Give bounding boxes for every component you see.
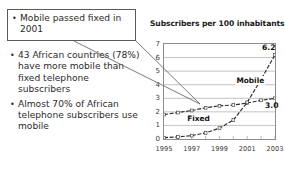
bullet-marker-icon: • (10, 99, 18, 110)
bullet-text: 43 African countries (78%) have more mob… (18, 50, 141, 96)
y-axis-tick-label: 1 (156, 121, 160, 129)
bullet-list-panel: • Mobile passed fixed in 2001 • 43 Afric… (0, 0, 148, 176)
gridlines (164, 58, 275, 126)
data-point-marker (176, 136, 179, 139)
list-item: • 43 African countries (78%) have more m… (7, 50, 141, 96)
callout-box: • Mobile passed fixed in 2001 (7, 9, 136, 41)
y-axis-labels: 01234567 (148, 43, 161, 140)
data-point-marker (274, 53, 275, 56)
x-axis-tick-label: 2001 (239, 145, 256, 153)
chart-title: Subscribers per 100 inhabitants (150, 19, 285, 28)
data-point-marker (260, 99, 263, 102)
y-axis-tick-label: 6 (156, 54, 160, 62)
y-axis-tick-label: 4 (156, 81, 160, 89)
x-axis-ticks (164, 136, 275, 139)
chart-panel: Subscribers per 100 inhabitants 01234567… (148, 0, 285, 176)
data-point-marker (274, 97, 275, 100)
list-item: • Almost 70% of African telephone subscr… (7, 99, 141, 133)
x-axis-tick-label: 1997 (183, 145, 200, 153)
data-point-marker (204, 131, 207, 134)
data-point-marker (246, 101, 249, 104)
data-point-marker (164, 136, 165, 139)
data-point-marker (190, 134, 193, 137)
secondary-bullets: • 43 African countries (78%) have more m… (7, 50, 141, 136)
y-axis-tick-label: 3 (156, 94, 160, 102)
data-point-marker (164, 113, 165, 116)
series-label-mobile: Mobile (235, 76, 265, 85)
data-point-marker (176, 111, 179, 114)
data-point-marker (218, 104, 221, 107)
series-paths (164, 53, 275, 139)
x-axis-tick-label: 1999 (211, 145, 228, 153)
x-axis-tick-label: 2003 (267, 145, 284, 153)
chart-svg (164, 44, 275, 139)
series-label-fixed: Fixed (186, 114, 211, 123)
data-point-marker (232, 104, 235, 107)
list-item: • Mobile passed fixed in 2001 (8, 10, 135, 36)
data-point-marker (218, 127, 221, 130)
value-label-fixed: 3.0 (265, 101, 278, 110)
data-point-marker (190, 109, 193, 112)
bullet-text: Almost 70% of African telephone subscrib… (18, 99, 141, 133)
x-axis-labels: 19951997199920012003 (163, 143, 276, 157)
value-label-mobile: 6.2 (262, 43, 275, 52)
data-point-marker (232, 119, 235, 122)
y-axis-tick-label: 2 (156, 108, 160, 116)
data-point-marker (204, 106, 207, 109)
bullet-marker-icon: • (10, 50, 18, 61)
bullet-marker-icon: • (12, 13, 20, 24)
y-axis-tick-label: 0 (156, 135, 160, 143)
y-axis-tick-label: 5 (156, 67, 160, 75)
callout-text: Mobile passed fixed in 2001 (20, 13, 131, 36)
y-axis-tick-label: 7 (156, 40, 160, 48)
plot-area (163, 43, 276, 140)
x-axis-tick-label: 1995 (156, 145, 173, 153)
slide-root: • Mobile passed fixed in 2001 • 43 Afric… (0, 0, 285, 176)
